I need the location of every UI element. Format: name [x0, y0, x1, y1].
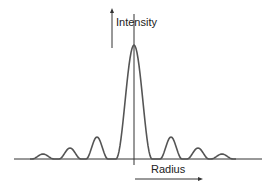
intensity-diagram: [0, 0, 272, 187]
intensity-arrowhead-icon: [110, 8, 114, 13]
y-axis-label: Intensity: [116, 16, 157, 28]
radius-arrowhead-icon: [198, 177, 203, 181]
intensity-curve: [30, 45, 236, 159]
x-axis-label: Radius: [151, 163, 185, 175]
